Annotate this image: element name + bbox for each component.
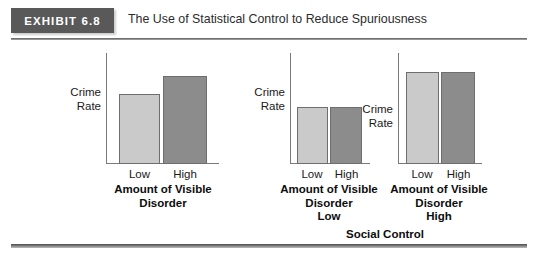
chart-high-bar-high	[441, 72, 475, 164]
exhibit-figure: EXHIBIT 6.8 The Use of Statistical Contr…	[0, 0, 533, 264]
chart-low-tick-low: Low	[295, 168, 329, 180]
exhibit-header: EXHIBIT 6.8 The Use of Statistical Contr…	[0, 0, 533, 40]
chart-high-y-axis-label: Crime Rate	[347, 103, 393, 130]
chart-low-bar-low	[297, 107, 328, 164]
footer-divider	[11, 244, 527, 248]
chart-low-y-axis	[290, 53, 291, 164]
social-control-group-label: Social Control	[300, 228, 470, 240]
chart-high-bar-low	[406, 72, 439, 164]
chart-low-tick-high: High	[330, 168, 363, 180]
chart-high-y-axis	[398, 53, 399, 164]
exhibit-title: The Use of Statistical Control to Reduce…	[128, 12, 427, 26]
chart-high-x-axis-caption: Amount of Visible Disorder High	[369, 183, 509, 224]
chart-total-tick-high: High	[163, 168, 207, 180]
chart-total-bar-low	[119, 94, 160, 164]
chart-total-tick-low: Low	[119, 168, 160, 180]
header-divider	[11, 38, 527, 40]
chart-high-subgroup-label: High	[369, 210, 509, 224]
chart-total-bar-high	[163, 76, 207, 164]
chart-total-y-axis	[106, 53, 107, 164]
chart-low-y-axis-label: Crime Rate	[239, 86, 285, 113]
chart-total-y-axis-label: Crime Rate	[55, 86, 101, 113]
exhibit-number-badge: EXHIBIT 6.8	[11, 8, 114, 33]
chart-high-tick-high: High	[441, 168, 476, 180]
chart-total-x-axis-caption: Amount of Visible Disorder	[93, 183, 233, 210]
chart-high-tick-low: Low	[404, 168, 440, 180]
